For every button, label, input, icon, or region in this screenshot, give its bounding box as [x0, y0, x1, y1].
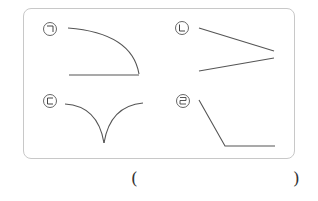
figure-b: [176, 22, 275, 72]
label-b-glyph-icon: [180, 25, 186, 32]
label-d-circle: [177, 95, 190, 108]
left-curve: [65, 104, 104, 143]
label-a-glyph-icon: [47, 26, 53, 32]
upper-line: [199, 28, 274, 51]
label-d-glyph-icon: [180, 98, 186, 105]
figure-d: [177, 95, 276, 147]
label-a-circle: [44, 23, 57, 36]
figure-c: [44, 95, 144, 144]
label-b-circle: [176, 22, 189, 35]
label-c-glyph-icon: [48, 98, 54, 104]
arc-curve: [68, 28, 139, 74]
answer-close-paren: ): [293, 168, 300, 188]
lower-line: [199, 58, 274, 71]
answer-blank[interactable]: [145, 170, 290, 190]
answer-open-paren: (: [131, 168, 138, 188]
label-c-circle: [44, 95, 57, 108]
bent-line: [199, 100, 275, 146]
figure-a: [44, 23, 140, 76]
right-curve: [104, 103, 143, 143]
